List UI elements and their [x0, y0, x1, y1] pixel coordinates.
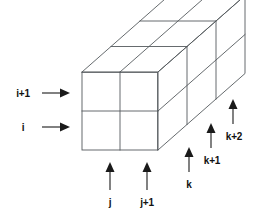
j-axis-arrows: j j+1	[106, 162, 155, 208]
arrow-k	[185, 147, 194, 172]
i-axis-arrows: i+1 i	[16, 88, 70, 133]
arrow-j-plus-1-head	[143, 162, 152, 172]
label-j: j	[108, 197, 112, 208]
label-j-plus-1: j+1	[139, 197, 154, 208]
cell-block	[82, 0, 245, 150]
arrow-i-plus-1	[42, 89, 70, 98]
arrow-k-plus-2	[229, 99, 238, 124]
label-k-plus-2: k+2	[226, 131, 243, 142]
arrow-j	[106, 162, 115, 190]
grid-diagram-svg: i+1 i j j+1	[0, 0, 259, 219]
arrow-j-plus-1	[143, 162, 152, 190]
label-k-plus-1: k+1	[204, 155, 221, 166]
label-k: k	[186, 179, 192, 190]
arrow-k-plus-2-head	[229, 99, 238, 109]
arrow-i-plus-1-head	[60, 89, 70, 98]
arrow-j-head	[106, 162, 115, 172]
diagram-root: i+1 i j j+1	[0, 0, 259, 219]
arrow-i-head	[60, 123, 70, 132]
label-i: i	[22, 122, 25, 133]
label-i-plus-1: i+1	[16, 88, 30, 99]
arrow-k-plus-1	[207, 123, 216, 148]
arrow-i	[42, 123, 70, 132]
arrow-k-plus-1-head	[207, 123, 216, 133]
arrow-k-head	[185, 147, 194, 157]
